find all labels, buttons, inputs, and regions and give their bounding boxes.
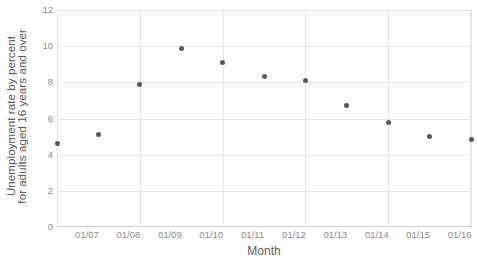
data-point [427, 134, 432, 139]
x-axis-title: Month [57, 245, 471, 257]
y-axis-title-line2: for adults aged 16 years and over [17, 29, 29, 204]
gridline-vertical [388, 10, 389, 227]
gridline-horizontal [57, 191, 471, 192]
gridline-horizontal [57, 46, 471, 47]
x-axis-tick-label: 01/14 [365, 230, 389, 240]
y-axis-tick-label: 6 [34, 114, 53, 124]
x-axis-tick-label: 01/16 [448, 230, 472, 240]
gridline-vertical [471, 10, 472, 227]
x-axis-tick-label: 01/10 [199, 230, 223, 240]
data-point [386, 120, 391, 125]
data-point [220, 60, 225, 65]
data-point [469, 137, 474, 142]
gridline-horizontal [57, 119, 471, 120]
data-point [303, 78, 308, 83]
gridline-vertical [305, 10, 306, 227]
plot-area [57, 10, 471, 227]
data-point [179, 46, 184, 51]
gridline-horizontal [57, 10, 471, 11]
x-axis-tick-label: 01/12 [282, 230, 306, 240]
y-axis-tick-label: 0 [34, 222, 53, 232]
x-axis-tick-label: 01/11 [241, 230, 264, 240]
x-axis-tick-label: 01/09 [158, 230, 182, 240]
y-axis-tick-label: 4 [34, 150, 53, 160]
gridline-vertical [57, 10, 58, 227]
gridline-horizontal [57, 82, 471, 83]
data-point [344, 103, 349, 108]
y-axis-tick-label: 2 [34, 186, 53, 196]
data-point [55, 141, 60, 146]
x-axis-tick-label: 01/07 [75, 230, 99, 240]
y-axis-tick-label: 10 [34, 41, 53, 51]
data-point [137, 82, 142, 87]
y-axis-tick-label: 12 [34, 5, 53, 15]
data-point [96, 132, 101, 137]
x-axis-line [57, 226, 471, 227]
gridline-vertical [223, 10, 224, 227]
x-axis-tick-label: 01/13 [324, 230, 348, 240]
y-axis-title: Unemployment rate by percent for adults … [0, 0, 34, 232]
gridline-vertical [140, 10, 141, 227]
gridline-vertical [470, 10, 471, 227]
gridline-horizontal [57, 155, 471, 156]
data-point [262, 74, 267, 79]
scatter-chart: Unemployment rate by percent for adults … [0, 0, 477, 264]
x-axis-tick-label: 01/15 [406, 230, 430, 240]
x-axis-tick-label: 01/08 [117, 230, 141, 240]
x-axis-tick-labels: 01/0701/0801/0901/1001/1101/1201/1301/14… [57, 230, 471, 244]
y-axis-tick-label: 8 [34, 77, 53, 87]
y-axis-tick-labels: 024681012 [34, 0, 53, 264]
